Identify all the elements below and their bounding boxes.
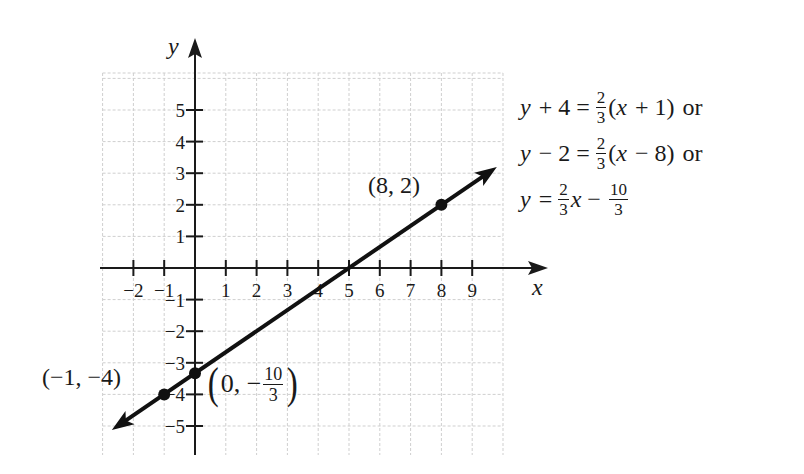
y-tick-label: −1: [165, 290, 185, 311]
x-tick-label: 2: [252, 280, 262, 301]
open-paren: (: [208, 362, 219, 406]
data-point: [435, 199, 447, 211]
eq-text: =: [539, 187, 553, 211]
slope-fraction: 2 3: [596, 89, 607, 126]
x-tick-label: 3: [283, 280, 293, 301]
equation-block: y + 4 = 2 3 ( x + 1) or y − 2 = 2 3 ( x …: [520, 84, 702, 222]
x-tick-label: 6: [375, 280, 385, 301]
data-point: [158, 388, 170, 400]
slope-fraction: 2 3: [558, 181, 569, 218]
fraction-denominator: 3: [597, 108, 606, 126]
eq-var: x: [616, 141, 627, 165]
point-label-b-prefix: 0, −: [221, 369, 262, 399]
fraction: 10 3: [263, 365, 283, 404]
fraction-numerator: 2: [596, 135, 607, 154]
point-label-a: (−1, −4): [42, 364, 121, 390]
x-tick-label: 5: [344, 280, 354, 301]
y-tick-label: 1: [176, 226, 186, 247]
equation-point-slope-1: y + 4 = 2 3 ( x + 1) or: [520, 84, 702, 130]
fraction-numerator: 2: [558, 181, 569, 200]
slope-fraction: 2 3: [596, 135, 607, 172]
eq-var: x: [571, 187, 582, 211]
eq-text: − 8): [635, 141, 675, 165]
eq-text: + 4 =: [539, 95, 590, 119]
equation-point-slope-2: y − 2 = 2 3 ( x − 8) or: [520, 130, 702, 176]
intercept-fraction: 10 3: [609, 181, 628, 218]
fraction-denominator: 3: [614, 200, 623, 218]
close-paren: ): [287, 362, 298, 406]
x-tick-label: 9: [467, 280, 477, 301]
x-axis-label: x: [531, 274, 543, 300]
fraction-numerator: 2: [596, 89, 607, 108]
fraction-denominator: 3: [597, 154, 606, 172]
eq-var: x: [616, 95, 627, 119]
equation-slope-intercept: y = 2 3 x − 10 3: [520, 176, 702, 222]
eq-var: y: [520, 95, 531, 119]
point-label-b: ( 0, − 10 3 ): [206, 362, 300, 406]
fraction-denominator: 3: [559, 200, 568, 218]
eq-text: or: [682, 141, 702, 165]
x-tick-label: 8: [437, 280, 447, 301]
y-tick-label: −5: [165, 416, 185, 437]
y-tick-label: −2: [165, 321, 185, 342]
line-arrow-down-icon: [112, 411, 135, 430]
eq-var: y: [520, 187, 531, 211]
x-tick-label: 7: [406, 280, 416, 301]
y-tick-label: 2: [176, 195, 186, 216]
y-tick-label: 4: [176, 132, 186, 153]
line-arrow-up-icon: [474, 167, 497, 186]
fraction-numerator: 10: [263, 365, 283, 385]
fraction-denominator: 3: [269, 385, 278, 404]
eq-text: −: [587, 187, 601, 211]
data-point: [189, 367, 201, 379]
coordinate-plane: −2−1123456789−5−4−3−2−112345 x y (−1, −4…: [0, 0, 804, 474]
eq-var: y: [520, 141, 531, 165]
eq-text: or: [682, 95, 702, 119]
x-tick-label: 1: [221, 280, 231, 301]
eq-text: − 2 =: [539, 141, 590, 165]
y-tick-label: −3: [165, 353, 185, 374]
y-tick-label: 3: [176, 163, 186, 184]
eq-text: + 1): [635, 95, 675, 119]
point-label-c: (8, 2): [368, 172, 420, 198]
fraction-numerator: 10: [609, 181, 628, 200]
y-axis-label: y: [166, 33, 179, 59]
y-tick-label: 5: [176, 100, 186, 121]
x-tick-label: −2: [123, 280, 143, 301]
